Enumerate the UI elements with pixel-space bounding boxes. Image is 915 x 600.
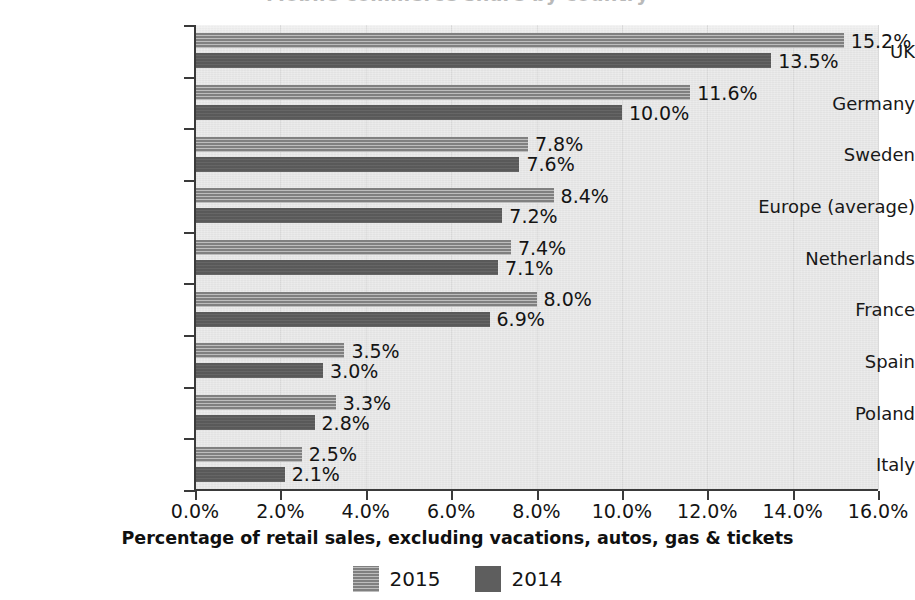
bar-value-label: 8.4% [561, 185, 609, 207]
bar-2014-uk [195, 53, 771, 68]
bar-2015-europe-average [195, 188, 554, 203]
bar-2014-europe-average [195, 208, 502, 223]
bar-2015-spain [195, 343, 344, 358]
bar-value-label: 15.2% [851, 30, 911, 52]
category-label-sweden: Sweden [729, 144, 915, 165]
bar-value-label: 6.9% [497, 308, 545, 330]
legend-label: 2015 [390, 567, 441, 591]
bar-value-label: 3.0% [330, 360, 378, 382]
x-axis-tick-label: 0.0% [171, 500, 219, 522]
x-axis-tick [451, 491, 453, 500]
bar-value-label: 7.4% [518, 237, 566, 259]
bar-value-label: 8.0% [544, 288, 592, 310]
bar-value-label: 2.1% [292, 463, 340, 485]
bar-2015-netherlands [195, 240, 511, 255]
bar-2015-sweden [195, 137, 528, 152]
bar-value-label: 3.5% [351, 340, 399, 362]
bar-value-label: 3.3% [343, 392, 391, 414]
bar-value-label: 2.8% [322, 412, 370, 434]
category-label-poland: Poland [729, 402, 915, 423]
y-axis-tick [184, 335, 195, 337]
chart-title: Mobile commerce share by country [0, 0, 915, 5]
y-axis-tick [184, 490, 195, 492]
legend-item-2015[interactable]: 2015 [353, 566, 441, 592]
x-axis-tick-label: 10.0% [592, 500, 652, 522]
bar-2015-france [195, 292, 537, 307]
y-axis-tick [184, 232, 195, 234]
category-label-europe-average: Europe (average) [729, 195, 915, 216]
x-axis-tick-label: 16.0% [848, 500, 908, 522]
x-axis-title: Percentage of retail sales, excluding va… [0, 528, 915, 548]
legend-label: 2014 [512, 567, 563, 591]
legend-swatch-icon [353, 566, 379, 592]
y-axis-tick [184, 25, 195, 27]
bar-value-label: 7.6% [526, 153, 574, 175]
chart-legend: 20152014 [0, 566, 915, 592]
bar-2014-germany [195, 105, 622, 120]
bar-2014-sweden [195, 157, 519, 172]
bar-2014-poland [195, 415, 315, 430]
x-axis-tick [195, 491, 197, 500]
bar-2014-spain [195, 363, 323, 378]
x-axis-tick-label: 12.0% [677, 500, 737, 522]
legend-item-2014[interactable]: 2014 [475, 566, 563, 592]
y-axis-tick [184, 283, 195, 285]
y-axis-tick [184, 128, 195, 130]
x-axis-tick-label: 8.0% [512, 500, 560, 522]
category-label-france: France [729, 299, 915, 320]
bar-2015-germany [195, 85, 690, 100]
x-axis-tick-label: 6.0% [427, 500, 475, 522]
bar-2014-italy [195, 467, 285, 482]
x-axis-tick-label: 14.0% [762, 500, 822, 522]
chart-title-clipped: Mobile commerce share by country [0, 0, 915, 14]
bar-2014-france [195, 312, 490, 327]
x-axis-tick-label: 2.0% [256, 500, 304, 522]
bar-2015-poland [195, 395, 336, 410]
y-axis-line [194, 25, 196, 491]
category-label-spain: Spain [729, 350, 915, 371]
x-axis-tick [878, 491, 880, 500]
y-axis-tick [184, 387, 195, 389]
bar-value-label: 7.1% [505, 257, 553, 279]
bar-2015-italy [195, 447, 302, 462]
x-axis-tick-label: 4.0% [342, 500, 390, 522]
y-axis-tick [184, 438, 195, 440]
category-label-italy: Italy [729, 454, 915, 475]
category-label-netherlands: Netherlands [729, 247, 915, 268]
x-axis-tick [707, 491, 709, 500]
x-axis-tick [793, 491, 795, 500]
y-axis-tick [184, 77, 195, 79]
x-axis-tick [622, 491, 624, 500]
legend-swatch-icon [475, 566, 501, 592]
bar-value-label: 13.5% [778, 50, 838, 72]
bar-value-label: 7.2% [509, 205, 557, 227]
y-axis-tick [184, 180, 195, 182]
bar-value-label: 10.0% [629, 102, 689, 124]
x-axis-tick [366, 491, 368, 500]
x-axis-tick [280, 491, 282, 500]
bar-value-label: 2.5% [309, 443, 357, 465]
bar-2014-netherlands [195, 260, 498, 275]
bar-value-label: 11.6% [697, 82, 757, 104]
x-axis-tick [537, 491, 539, 500]
bar-value-label: 7.8% [535, 133, 583, 155]
